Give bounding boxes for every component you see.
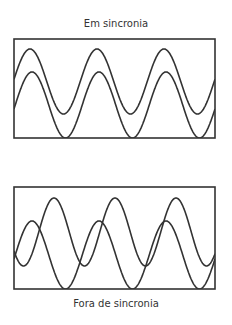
in-sync-panel <box>14 39 215 138</box>
out-of-sync-panel <box>14 187 215 289</box>
panel-frame <box>14 39 215 138</box>
waves-diagram <box>0 0 232 325</box>
wave-low <box>14 221 215 289</box>
wave-upper <box>14 49 215 114</box>
panel-frame <box>14 187 215 289</box>
wave-high <box>14 198 215 266</box>
out-of-sync-label: Fora de sincronia <box>0 298 232 309</box>
